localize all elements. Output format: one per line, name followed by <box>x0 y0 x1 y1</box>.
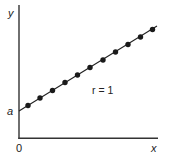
data-point <box>138 34 143 39</box>
data-point <box>150 27 155 32</box>
data-point <box>50 88 55 93</box>
scatter-chart: y x 0 a r = 1 <box>0 0 171 161</box>
data-point <box>125 42 130 47</box>
data-point <box>62 80 67 85</box>
data-point <box>37 95 42 100</box>
intercept-label: a <box>7 105 13 117</box>
y-axis-label: y <box>7 7 15 19</box>
origin-label: 0 <box>16 142 22 154</box>
data-point <box>113 49 118 54</box>
x-axis-label: x <box>150 142 157 154</box>
correlation-annotation: r = 1 <box>92 84 113 96</box>
data-point <box>25 103 30 108</box>
data-point <box>100 57 105 62</box>
data-point <box>87 65 92 70</box>
data-point <box>75 72 80 77</box>
